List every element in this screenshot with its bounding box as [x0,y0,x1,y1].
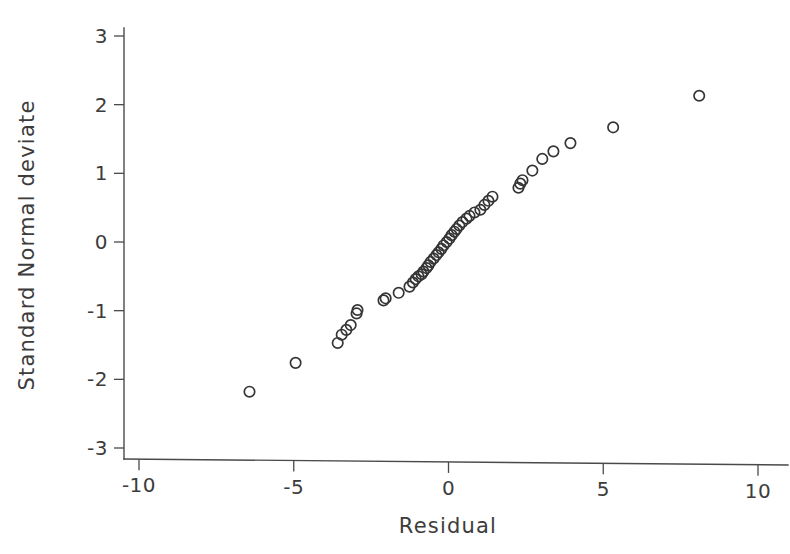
x-axis-title: Residual [399,514,497,538]
y-tick-label--3: -3 [87,436,108,460]
y-tick-label-0: 0 [95,230,108,254]
data-point [380,293,390,303]
y-tick-label-2: 2 [95,93,108,117]
x-tick-label--10: -10 [122,473,156,497]
data-point [393,288,403,298]
axes-group [124,28,788,465]
qq-plot-canvas: -3-2-10123-10-50510 Residual Standard No… [0,0,790,554]
x-tick-label-0: 0 [442,476,455,500]
y-axis-title: Standard Normal deviate [15,99,39,390]
data-point [527,165,537,175]
x-tick-label--5: -5 [283,475,304,499]
y-tick-label-3: 3 [95,24,108,48]
data-point [608,122,618,132]
x-tick-label-5: 5 [597,477,610,501]
data-point [290,358,300,368]
data-point [537,154,547,164]
x-tick-label-10: 10 [745,479,771,503]
qq-plot-figure: -3-2-10123-10-50510 Residual Standard No… [0,0,790,554]
data-point [244,386,254,396]
data-point [694,91,704,101]
x-axis-line [124,459,788,465]
data-points-group [244,91,704,397]
y-tick-label-1: 1 [95,161,108,185]
y-tick-label--1: -1 [87,299,108,323]
data-point [565,138,575,148]
data-point [548,146,558,156]
y-tick-label--2: -2 [87,367,108,391]
